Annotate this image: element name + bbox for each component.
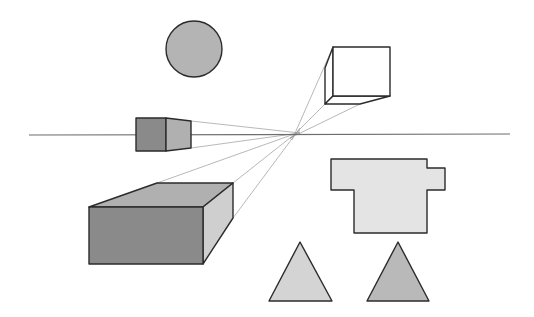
triangle-dark [367, 242, 429, 301]
small-box [136, 118, 191, 151]
triangle-light [269, 242, 332, 301]
guide-line [290, 104, 325, 139]
circle-shape [166, 21, 222, 77]
cross-shape [331, 159, 445, 233]
small-box-front-face [136, 118, 166, 151]
floating-cube [325, 47, 390, 104]
horizon-line [29, 134, 510, 135]
cube-left-face [325, 47, 333, 104]
guide-line [191, 133, 300, 148]
perspective-diagram [0, 0, 534, 317]
cube-bottom-face [325, 96, 390, 104]
guide-line [233, 128, 300, 218]
large-box [89, 183, 233, 264]
cube-front-face [333, 47, 390, 96]
small-box-side-face [166, 118, 191, 151]
large-box-front-face [89, 207, 203, 264]
guide-line [191, 121, 300, 133]
